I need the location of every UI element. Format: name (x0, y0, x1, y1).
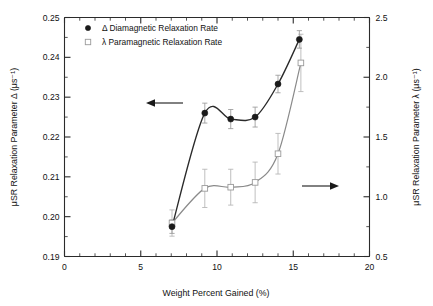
datapoint (228, 116, 234, 122)
datapoint (252, 114, 258, 120)
x-ticklabel: 10 (212, 262, 222, 272)
y-left-ticklabel: 0.24 (43, 52, 60, 62)
chart-legend: Δ Diamagnetic Relaxation Rate λ Paramagn… (85, 23, 222, 47)
y-right-ticklabel: 1.5 (376, 132, 388, 142)
lambda-datapoints (169, 60, 303, 226)
y-axis-left-ticklabels: 0.190.200.210.220.230.240.25 (43, 13, 60, 262)
plot-frame (65, 18, 370, 257)
y-left-ticklabel: 0.22 (43, 132, 60, 142)
datapoint (296, 36, 302, 42)
x-axis-ticklabels: 05101520 (62, 262, 374, 272)
y-left-ticklabel: 0.25 (43, 13, 60, 23)
x-ticklabel: 0 (62, 262, 67, 272)
legend-marker-open-square (85, 39, 90, 44)
legend-label-delta: Δ Diamagnetic Relaxation Rate (102, 23, 218, 33)
y-left-ticklabel: 0.20 (43, 212, 60, 222)
datapoint (275, 151, 281, 157)
y-axis-right-ticklabels: 0.51.01.52.02.5 (376, 13, 388, 262)
y-axis-right-title: μSR Relaxation Parameter λ (μs⁻¹) (411, 68, 421, 205)
x-axis-title: Weight Percent Gained (%) (163, 288, 270, 298)
datapoint (252, 180, 258, 186)
datapoint (202, 110, 208, 116)
chart-figure: 05101520 0.190.200.210.220.230.240.25 0.… (0, 0, 433, 306)
y-right-ticklabel: 0.5 (376, 252, 388, 262)
x-ticklabel: 15 (288, 262, 298, 272)
datapoint (202, 186, 208, 192)
y-right-ticklabel: 1.0 (376, 192, 388, 202)
x-axis-ticks (65, 18, 370, 257)
chart-svg: 05101520 0.190.200.210.220.230.240.25 0.… (0, 0, 433, 306)
legend-label-lambda: λ Paramagnetic Relaxation Rate (102, 37, 222, 47)
y-left-ticklabel: 0.21 (43, 172, 60, 182)
y-axis-right-ticks (364, 18, 370, 257)
y-left-ticklabel: 0.19 (43, 252, 60, 262)
y-left-ticklabel: 0.23 (43, 92, 60, 102)
x-ticklabel: 5 (138, 262, 143, 272)
lambda-curve (172, 63, 301, 223)
y-right-ticklabel: 2.0 (376, 72, 388, 82)
datapoint (169, 224, 175, 230)
x-ticklabel: 20 (365, 262, 375, 272)
legend-marker-filled-circle (85, 25, 90, 30)
right-axis-arrow (302, 182, 339, 190)
datapoint (275, 81, 281, 87)
datapoint (228, 184, 234, 190)
y-axis-left-ticks (65, 18, 71, 257)
delta-datapoints (169, 36, 302, 229)
left-axis-arrow (146, 99, 183, 107)
y-right-ticklabel: 2.5 (376, 13, 388, 23)
y-axis-left-title: μSR Relaxation Parameter Δ (μs⁻¹) (9, 68, 19, 206)
datapoint (298, 60, 304, 66)
